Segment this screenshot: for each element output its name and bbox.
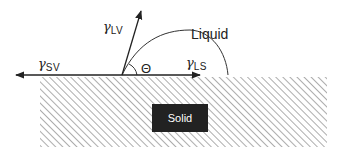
solid-label: Solid xyxy=(168,112,192,124)
gamma-lv-label: γLV xyxy=(103,20,123,33)
liquid-label: Liquid xyxy=(191,27,228,41)
diagram-graphics xyxy=(0,0,340,158)
gamma-sv-label: γSV xyxy=(38,57,60,70)
theta-label: Θ xyxy=(141,62,151,75)
contact-angle-diagram: γLV γSV γLS Θ Liquid Solid xyxy=(0,0,340,158)
contact-angle-arc xyxy=(129,64,137,75)
gamma-ls-label: γLS xyxy=(186,56,207,69)
solid-label-box: Solid xyxy=(152,104,208,132)
